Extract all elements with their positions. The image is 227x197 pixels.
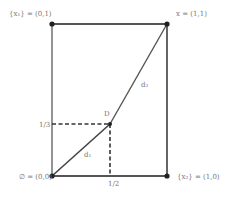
- point-top-right: [164, 21, 169, 26]
- point-d: [108, 122, 112, 126]
- point-bottom-right: [164, 173, 169, 178]
- label-point-d: D: [104, 110, 110, 118]
- label-d1: d₁: [84, 151, 91, 159]
- segment-d1: [52, 124, 110, 176]
- lattice-diagram: {x₁} = (0,1) x = (1,1) ∅ = (0,0) {x₂} = …: [0, 0, 227, 197]
- tick-label-x: 1/2: [108, 180, 119, 188]
- segment-d2: [110, 24, 167, 124]
- point-top-left: [49, 21, 54, 26]
- label-bottom-left: ∅ = (0,0): [19, 173, 52, 181]
- label-top-right: x = (1,1): [176, 10, 207, 18]
- label-top-left: {x₁} = (0,1): [9, 10, 52, 18]
- tick-label-y: 1/3: [39, 121, 50, 129]
- label-d2: d₂: [141, 81, 148, 89]
- label-bottom-right: {x₂} = (1,0): [177, 173, 220, 181]
